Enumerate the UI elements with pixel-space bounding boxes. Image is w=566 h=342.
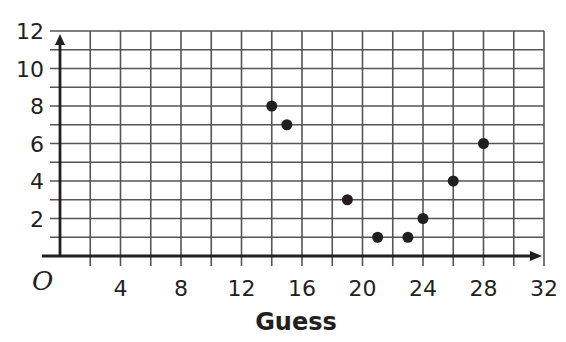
grid-lines [50, 31, 544, 266]
y-tick-label: 2 [30, 207, 44, 232]
data-point [478, 138, 489, 149]
data-point [281, 119, 292, 130]
y-tick-labels: 24681012 [16, 19, 44, 232]
x-tick-label: 8 [174, 276, 188, 301]
y-axis-arrow-icon [55, 34, 65, 45]
data-point [448, 176, 459, 187]
y-tick-label: 12 [16, 19, 44, 44]
data-point [418, 213, 429, 224]
y-tick-label: 8 [30, 94, 44, 119]
x-tick-label: 28 [470, 276, 498, 301]
x-tick-label: 16 [288, 276, 316, 301]
data-point [266, 101, 277, 112]
x-axis-arrow-icon [530, 251, 542, 261]
scatter-plot: 24681012 48121620242832 O Guess [0, 0, 566, 342]
data-point [342, 194, 353, 205]
x-tick-label: 12 [228, 276, 256, 301]
y-tick-label: 10 [16, 57, 44, 82]
x-tick-labels: 48121620242832 [114, 276, 559, 301]
x-tick-label: 24 [409, 276, 437, 301]
y-tick-label: 6 [30, 132, 44, 157]
x-tick-label: 20 [349, 276, 377, 301]
data-point [402, 232, 413, 243]
data-point [372, 232, 383, 243]
x-tick-label: 4 [114, 276, 128, 301]
x-axis-label: Guess [255, 308, 337, 336]
y-tick-label: 4 [30, 169, 44, 194]
x-tick-label: 32 [530, 276, 558, 301]
origin-label: O [32, 266, 53, 296]
data-points [266, 101, 489, 243]
